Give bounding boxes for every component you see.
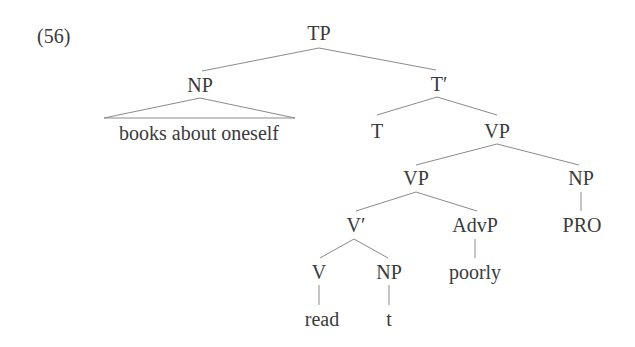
- node-np-right: NP: [568, 168, 594, 188]
- node-v: V: [312, 262, 326, 282]
- node-np-object: NP: [376, 262, 402, 282]
- node-advp: AdvP: [452, 215, 498, 235]
- tree-edges: [0, 0, 635, 347]
- edge-tp-np: [202, 48, 319, 71]
- node-np-subject-content: books about oneself: [119, 123, 279, 143]
- edge-vp-np: [497, 144, 579, 165]
- example-number: (56): [37, 26, 70, 46]
- node-vp-lower: VP: [403, 168, 429, 188]
- edge-vbar-v: [320, 239, 354, 258]
- node-t: T: [371, 121, 383, 141]
- np-triangle: [104, 98, 295, 118]
- edge-tp-tbar: [319, 48, 436, 70]
- node-trace: t: [386, 309, 392, 329]
- edge-tbar-t: [377, 97, 437, 115]
- node-read: read: [305, 309, 339, 329]
- node-t-bar: T′: [431, 74, 448, 94]
- node-pro: PRO: [563, 215, 602, 235]
- edge-vplow-advp: [416, 192, 477, 211]
- node-poorly: poorly: [449, 262, 501, 282]
- edge-vbar-np: [354, 239, 388, 258]
- node-np-subject: NP: [187, 75, 213, 95]
- node-vp-upper: VP: [484, 121, 510, 141]
- edge-vp-vp: [416, 144, 497, 165]
- node-tp: TP: [307, 23, 330, 43]
- edge-vplow-vbar: [356, 192, 416, 211]
- syntax-tree-diagram: (56) TP NP books about oneself T′ T VP V…: [0, 0, 635, 347]
- edge-tbar-vp: [437, 97, 497, 115]
- node-v-bar: V′: [347, 215, 366, 235]
